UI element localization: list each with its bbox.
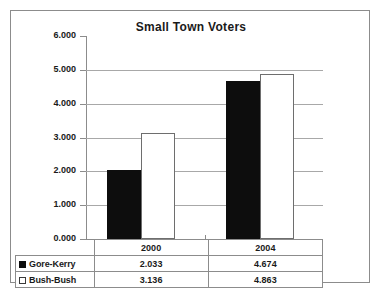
legend-label: Gore-Kerry	[29, 259, 76, 269]
table-value-cell: 2.033	[94, 256, 208, 272]
legend-item-bush-bush: Bush-Bush	[16, 272, 95, 288]
table-header-row: 20002004	[16, 240, 323, 256]
y-axis-label: 5.000	[16, 65, 76, 74]
table-value-cell: 4.674	[208, 256, 322, 272]
table-column-header-2004: 2004	[208, 240, 322, 256]
table-value-cell: 4.863	[208, 272, 322, 288]
y-axis-label: 6.000	[16, 31, 76, 40]
category-separator	[205, 235, 206, 240]
filled-square-icon	[19, 261, 26, 268]
table-row: Gore-Kerry2.0334.674	[16, 256, 323, 272]
bar-gore-kerry-2000	[107, 170, 141, 239]
legend-label: Bush-Bush	[29, 275, 76, 285]
table-column-header-2000: 2000	[94, 240, 208, 256]
table-corner-cell	[16, 240, 95, 256]
data-table: 20002004Gore-Kerry2.0334.674Bush-Bush3.1…	[15, 239, 323, 288]
plot-area	[86, 36, 323, 239]
chart-frame: Small Town Voters 6.0005.0004.0003.0002.…	[10, 10, 370, 283]
figure-caption	[10, 287, 340, 296]
y-axis-label: 1.000	[16, 200, 76, 209]
y-axis-label: 2.000	[16, 166, 76, 175]
bar-bush-bush-2004	[260, 74, 294, 239]
gridline	[86, 70, 323, 71]
bar-gore-kerry-2004	[226, 81, 260, 239]
legend-item-gore-kerry: Gore-Kerry	[16, 256, 95, 272]
table-value-cell: 3.136	[94, 272, 208, 288]
y-axis-label: 3.000	[16, 133, 76, 142]
bar-bush-bush-2000	[141, 133, 175, 239]
open-square-icon	[19, 277, 26, 284]
table-row: Bush-Bush3.1364.863	[16, 272, 323, 288]
y-axis-label: 4.000	[16, 99, 76, 108]
